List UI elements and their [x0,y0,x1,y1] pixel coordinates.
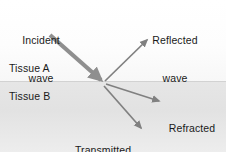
refracted-wave-label-line1: Refracted [161,122,223,135]
refracted-wave-label: Refracted wave [161,97,223,152]
incident-wave-label-line1: Incident [13,34,69,47]
reflected-wave-arrow [105,40,147,81]
tissue-a-label: Tissue A [9,62,69,75]
reflected-wave-label: Reflected wave [142,9,208,109]
reflected-wave-label-line1: Reflected [142,34,208,47]
reflected-wave-label-line2: wave [142,72,208,85]
tissue-b-label: Tissue B [9,90,69,103]
transmitted-wave-label-line1: Transmitted [64,144,142,152]
wave-boundary-diagram: Incident wave Reflected wave Refracted w… [0,0,226,152]
transmitted-wave-label: Transmitted wave [64,119,142,152]
